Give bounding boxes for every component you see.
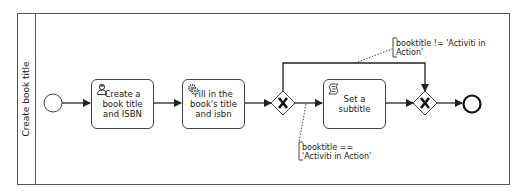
script-icon <box>328 83 340 95</box>
start-event[interactable] <box>44 94 62 112</box>
task-create-book-title[interactable]: Create a book title and ISBN <box>91 79 154 129</box>
task-fill-in-title[interactable]: Fill in the book's title and isbn <box>182 79 245 129</box>
end-event[interactable] <box>464 96 481 113</box>
gateway-split[interactable] <box>271 91 295 115</box>
gear-icon <box>187 83 199 95</box>
annotation-default-flow: booktitle != 'Activiti in Action' <box>396 39 486 57</box>
flow-connectors <box>0 0 526 196</box>
annotation-line: Action' <box>396 48 486 57</box>
user-icon <box>96 83 108 95</box>
annotation-association-subtitle <box>299 104 306 142</box>
annotation-line: 'Activiti in Action' <box>302 152 371 161</box>
annotation-line: booktitle == <box>302 143 371 152</box>
task-label: Set a subtitle <box>324 94 385 114</box>
gateway-join[interactable] <box>413 91 437 115</box>
task-set-subtitle[interactable]: Set a subtitle <box>323 79 386 129</box>
annotation-line: booktitle != 'Activiti in <box>396 39 486 48</box>
annotation-subtitle-flow: booktitle == 'Activiti in Action' <box>302 143 371 161</box>
annotation-association-default <box>355 49 392 63</box>
